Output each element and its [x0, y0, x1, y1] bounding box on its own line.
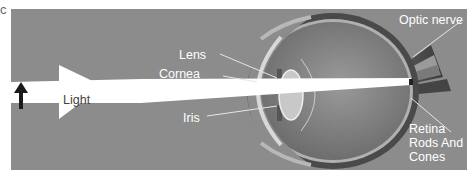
- retina-spot: [409, 79, 413, 85]
- eye-diagram: [11, 9, 467, 170]
- corner-mark: c: [0, 2, 7, 17]
- label-retina-line2: Rods And: [409, 136, 463, 150]
- label-light: Light: [63, 93, 90, 107]
- label-retina: Retina Rods And Cones: [409, 122, 463, 164]
- label-lens: Lens: [179, 48, 206, 62]
- diagram-panel: Light Lens Cornea Iris Optic nerve Retin…: [11, 9, 467, 170]
- label-cornea: Cornea: [159, 67, 200, 81]
- label-retina-line3: Cones: [409, 150, 463, 164]
- lens-shape: [279, 70, 303, 120]
- label-retina-line1: Retina: [409, 122, 463, 136]
- label-optic-nerve: Optic nerve: [399, 13, 463, 27]
- label-iris: Iris: [183, 111, 200, 125]
